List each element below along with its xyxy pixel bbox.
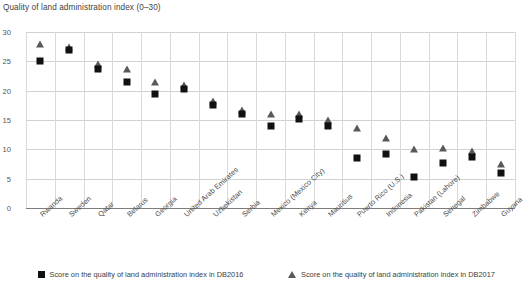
gridline-vertical bbox=[227, 32, 228, 208]
gridline-vertical bbox=[400, 32, 401, 208]
data-point-square bbox=[353, 154, 360, 161]
gridline-vertical bbox=[429, 32, 430, 208]
data-point-square bbox=[497, 169, 504, 176]
data-point-square bbox=[411, 174, 418, 181]
data-point-square bbox=[37, 58, 44, 65]
y-tick-label: 10 bbox=[0, 145, 11, 154]
data-point-triangle bbox=[123, 65, 131, 72]
y-tick-label: 20 bbox=[0, 86, 11, 95]
legend-label-db2016: Score on the quality of land administrat… bbox=[50, 270, 244, 279]
gridline-vertical bbox=[342, 32, 343, 208]
data-point-triangle bbox=[151, 78, 159, 85]
data-point-square bbox=[123, 78, 130, 85]
chart-title: Quality of land administration index (0–… bbox=[3, 3, 161, 12]
data-point-square bbox=[209, 102, 216, 109]
gridline-vertical bbox=[285, 32, 286, 208]
gridline-vertical bbox=[515, 32, 516, 208]
legend-item-db2016: Score on the quality of land administrat… bbox=[38, 270, 243, 279]
data-point-square bbox=[152, 90, 159, 97]
data-point-triangle bbox=[382, 134, 390, 141]
gridline-vertical bbox=[199, 32, 200, 208]
gridline-vertical bbox=[55, 32, 56, 208]
legend-label-db2017: Score on the quality of land administrat… bbox=[301, 270, 495, 279]
gridline-vertical bbox=[457, 32, 458, 208]
chart-legend: Score on the quality of land administrat… bbox=[0, 266, 530, 285]
gridline-vertical bbox=[141, 32, 142, 208]
data-point-square bbox=[296, 116, 303, 123]
data-point-square bbox=[66, 46, 73, 53]
y-tick-label: 25 bbox=[0, 57, 11, 66]
data-point-square bbox=[468, 153, 475, 160]
gridline-horizontal bbox=[26, 91, 515, 92]
y-tick-label: 30 bbox=[0, 28, 11, 37]
data-point-square bbox=[94, 65, 101, 72]
data-point-square bbox=[382, 151, 389, 158]
gridline-vertical bbox=[112, 32, 113, 208]
data-point-triangle bbox=[267, 111, 275, 118]
data-point-triangle bbox=[439, 145, 447, 152]
square-marker-icon bbox=[38, 271, 45, 278]
triangle-marker-icon bbox=[288, 271, 296, 278]
y-tick-label: 15 bbox=[0, 116, 11, 125]
data-point-square bbox=[325, 122, 332, 129]
gridline-vertical bbox=[26, 32, 27, 208]
gridline-vertical bbox=[84, 32, 85, 208]
data-point-square bbox=[238, 111, 245, 118]
data-point-square bbox=[440, 160, 447, 167]
data-point-triangle bbox=[497, 161, 505, 168]
x-axis-baseline bbox=[26, 208, 515, 210]
data-point-square bbox=[181, 85, 188, 92]
gridline-vertical bbox=[256, 32, 257, 208]
gridline-vertical bbox=[170, 32, 171, 208]
plot-area bbox=[26, 32, 515, 208]
gridline-vertical bbox=[371, 32, 372, 208]
data-point-square bbox=[267, 122, 274, 129]
y-tick-label: 5 bbox=[0, 174, 11, 183]
gridline-vertical bbox=[486, 32, 487, 208]
land-administration-index-chart: Quality of land administration index (0–… bbox=[0, 0, 530, 285]
gridline-vertical bbox=[314, 32, 315, 208]
y-tick-label: 0 bbox=[0, 204, 11, 213]
legend-item-db2017: Score on the quality of land administrat… bbox=[288, 270, 495, 279]
data-point-triangle bbox=[353, 124, 361, 131]
gridline-horizontal bbox=[26, 179, 515, 180]
gridline-horizontal bbox=[26, 120, 515, 121]
gridline-horizontal bbox=[26, 32, 515, 33]
data-point-triangle bbox=[410, 146, 418, 153]
data-point-triangle bbox=[36, 40, 44, 47]
